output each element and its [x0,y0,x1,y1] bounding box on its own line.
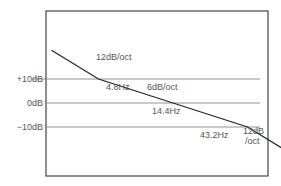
slope-label-high-line1: 12dB [243,126,264,136]
slope-label-high-line2: /oct [245,136,260,146]
plot-frame [46,11,268,176]
slope-label-low: 12dB/oct [96,52,132,62]
reference-label-0: +10dB [17,74,43,84]
reference-labels: +10dB0dB−10dB [17,74,43,132]
slope-label-mid: 6dB/oct [147,82,178,92]
response-diagram: +10dB0dB−10dB 12dB/oct 6dB/oct 12dB /oct… [0,0,281,186]
breakpoint-label-4-8hz: 4.8Hz [106,82,130,92]
reference-label-2: −10dB [17,122,43,132]
breakpoint-label-43-2hz: 43.2Hz [200,130,229,140]
reference-label-1: 0dB [27,98,43,108]
breakpoint-label-14-4hz: 14.4Hz [152,106,181,116]
